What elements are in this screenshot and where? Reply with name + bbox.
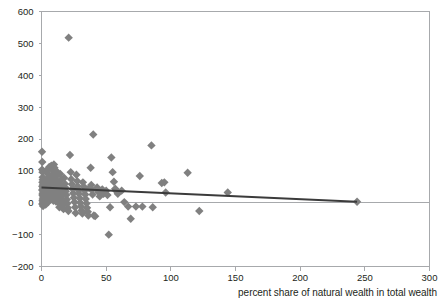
y-tick-label: 0: [28, 197, 33, 208]
scatter-point: [127, 214, 135, 222]
scatter-point: [147, 141, 155, 149]
scatter-point: [105, 230, 113, 238]
y-tick-label: 200: [18, 133, 34, 144]
y-tick-label: 100: [18, 165, 34, 176]
scatter-point: [138, 202, 146, 210]
x-tick-label: 50: [101, 272, 112, 283]
y-tick-label: 400: [18, 70, 34, 81]
scatter-point: [38, 148, 46, 156]
x-tick-label: 300: [422, 272, 438, 283]
x-axis-tick-labels: 050100150200250300: [39, 272, 438, 283]
scatter-point: [64, 33, 72, 41]
y-tick-label: 500: [18, 38, 34, 49]
scatter-point: [86, 163, 94, 171]
y-axis-tick-labels: −200−1000100200300400500600: [12, 6, 33, 272]
y-tick-label: 600: [18, 6, 34, 17]
scatter-point: [108, 168, 116, 176]
y-tick-label: −200: [12, 261, 33, 272]
scatter-data-points: [38, 33, 361, 238]
x-axis-title: percent share of natural wealth in total…: [238, 287, 437, 298]
scatter-point: [195, 207, 203, 215]
scatter-point: [110, 178, 118, 186]
scatter-point: [106, 203, 114, 211]
scatter-point: [89, 130, 97, 138]
scatter-point: [107, 153, 115, 161]
x-tick-label: 0: [39, 272, 44, 283]
x-axis-tick-marks: [42, 267, 430, 271]
scatter-point: [149, 203, 157, 211]
scatter-chart-figure: −200−1000100200300400500600 050100150200…: [0, 0, 443, 304]
x-tick-label: 150: [228, 272, 244, 283]
x-tick-label: 250: [357, 272, 373, 283]
y-tick-label: −100: [12, 229, 33, 240]
scatter-point: [183, 169, 191, 177]
y-tick-label: 300: [18, 102, 34, 113]
scatter-point: [38, 158, 46, 166]
x-tick-label: 200: [292, 272, 308, 283]
x-tick-label: 100: [163, 272, 179, 283]
scatter-point: [136, 172, 144, 180]
scatter-point: [66, 151, 74, 159]
scatter-plot-svg: −200−1000100200300400500600 050100150200…: [0, 0, 443, 304]
